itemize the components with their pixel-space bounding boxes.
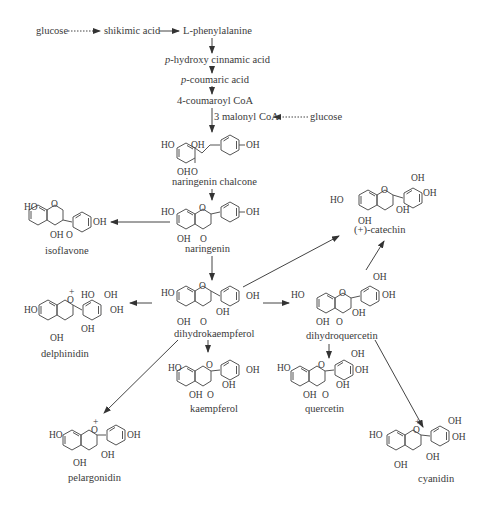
quercetin-structure: HO O OH OH OH OH O <box>277 349 369 400</box>
svg-text:+: + <box>69 287 74 297</box>
pelargonidin-structure: HO O + OH OH OH <box>49 417 141 468</box>
svg-text:O: O <box>199 281 206 291</box>
naringenin-label: naringenin <box>185 243 231 254</box>
hydroxy-cinnamic-acid-label: p-hydroxy cinnamic acid <box>164 54 271 65</box>
svg-text:OH: OH <box>177 317 191 327</box>
svg-text:OH: OH <box>216 307 230 317</box>
coumaric-acid-label: p-coumaric acid <box>180 74 250 85</box>
svg-text:OH: OH <box>101 450 115 460</box>
svg-text:O: O <box>336 317 343 327</box>
svg-text:O: O <box>200 317 207 327</box>
arrow-to-pelargonidin <box>104 340 178 413</box>
svg-text:OH: OH <box>93 217 107 227</box>
svg-text:O: O <box>199 203 206 213</box>
svg-text:OH: OH <box>110 305 124 315</box>
pelargonidin-label: pelargonidin <box>68 472 122 483</box>
isoflavone-label: isoflavone <box>45 245 89 256</box>
naringenin-chalcone-structure: HO OH OH OH O <box>161 135 260 177</box>
kaempferol-label: kaempferol <box>190 403 238 414</box>
svg-text:O: O <box>51 199 58 209</box>
dihydroquercetin-label: dihydroquercetin <box>306 330 378 341</box>
svg-text:OH: OH <box>50 230 64 240</box>
svg-text:OH: OH <box>104 290 118 300</box>
svg-text:HO: HO <box>168 363 182 373</box>
svg-text:O: O <box>66 230 73 240</box>
svg-text:OH: OH <box>396 205 410 215</box>
svg-text:OH: OH <box>191 140 205 150</box>
svg-text:OH: OH <box>50 333 64 343</box>
coumaroyl-coa-label: 4-coumaroyl CoA <box>177 95 254 106</box>
svg-text:OH: OH <box>411 173 425 183</box>
svg-text:HO: HO <box>330 195 344 205</box>
svg-text:HO: HO <box>24 305 38 315</box>
svg-text:OH: OH <box>336 380 350 390</box>
delphinidin-label: delphinidin <box>41 348 90 359</box>
svg-text:O: O <box>318 360 325 370</box>
svg-text:O: O <box>339 288 346 298</box>
quercetin-label: quercetin <box>305 403 345 414</box>
glucose-label: glucose <box>36 25 68 36</box>
svg-text:OH: OH <box>452 432 466 442</box>
svg-text:HO: HO <box>49 430 63 440</box>
svg-text:HO: HO <box>161 140 175 150</box>
svg-text:OH: OH <box>127 430 141 440</box>
dihydroquercetin-structure: HO O OH OH OH OH O <box>291 272 396 327</box>
svg-text:OH: OH <box>426 452 440 462</box>
svg-text:+: + <box>93 417 98 427</box>
svg-text:OH: OH <box>222 380 236 390</box>
svg-text:OH: OH <box>373 272 387 282</box>
svg-text:HO: HO <box>81 290 95 300</box>
shikimic-acid-label: shikimic acid <box>104 25 161 36</box>
svg-text:OH: OH <box>303 390 317 400</box>
delphinidin-structure: HO O + HO OH OH OH OH <box>24 287 124 343</box>
svg-text:O: O <box>381 185 388 195</box>
svg-text:OH: OH <box>355 365 369 375</box>
svg-text:OH: OH <box>246 207 260 217</box>
isoflavone-structure: HO O OH OH O <box>24 199 107 240</box>
svg-text:HO: HO <box>369 430 383 440</box>
catechin-structure: HO O OH OH OH OH <box>330 173 437 226</box>
svg-text:OH: OH <box>394 460 408 470</box>
glucose-label-2: glucose <box>310 111 342 122</box>
malonyl-coa-label: 3 malonyl CoA <box>214 111 279 122</box>
svg-text:OH: OH <box>316 317 330 327</box>
kaempferol-structure: HO O OH OH OH O <box>168 360 260 400</box>
cyanidin-structure: HO O + OH OH OH OH <box>369 416 466 470</box>
svg-text:OH: OH <box>73 458 87 468</box>
svg-text:OH: OH <box>352 308 366 318</box>
cyanidin-label: cyanidin <box>418 473 455 484</box>
svg-text:OH: OH <box>189 390 203 400</box>
svg-text:O: O <box>207 390 214 400</box>
svg-text:OH: OH <box>246 140 260 150</box>
svg-text:HO: HO <box>24 202 38 212</box>
naringenin-chalcone-label: naringenin chalcone <box>172 176 257 187</box>
svg-text:HO: HO <box>291 290 305 300</box>
precursor-chain: glucose shikimic acid L-phenylalanine p-… <box>36 25 342 132</box>
dihydrokaempferol-structure: HO O OH OH OH O <box>161 281 260 327</box>
arrow-dihydroquercetin-to-catechin <box>366 241 384 270</box>
svg-text:O: O <box>206 360 213 370</box>
catechin-label: (+)-catechin <box>354 224 406 236</box>
dihydrokaempferol-label: dihydrokaempferol <box>174 328 255 339</box>
svg-text:O: O <box>322 390 329 400</box>
svg-text:OH: OH <box>81 324 95 334</box>
svg-text:HO: HO <box>161 207 175 217</box>
svg-text:OH: OH <box>246 291 260 301</box>
svg-text:HO: HO <box>161 288 175 298</box>
svg-text:OH: OH <box>423 188 437 198</box>
arrow-to-catechin <box>243 236 339 287</box>
flavonoid-pathway-diagram: glucose shikimic acid L-phenylalanine p-… <box>0 0 493 509</box>
svg-text:OH: OH <box>382 290 396 300</box>
svg-text:OH: OH <box>246 365 260 375</box>
naringenin-structure: HO O OH OH O <box>161 202 260 244</box>
svg-text:OH: OH <box>448 416 462 426</box>
arrow-to-cyanidin <box>375 340 423 427</box>
svg-text:+: + <box>415 417 420 427</box>
phenylalanine-label: L-phenylalanine <box>183 25 252 36</box>
svg-text:HO: HO <box>277 363 291 373</box>
svg-text:OH: OH <box>351 349 365 359</box>
